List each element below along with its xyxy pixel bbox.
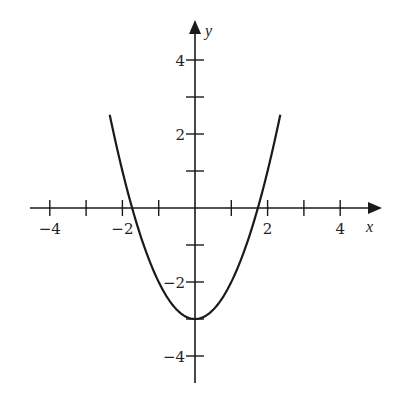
x-tick-label: 4 [335,220,345,238]
x-tick-label: −4 [39,220,61,238]
y-axis-arrow-icon [189,20,201,34]
x-tick-label: 2 [263,220,273,238]
y-tick-label: 4 [175,52,185,70]
x-tick-labels: −4−224 [39,220,345,238]
parabola-plot: −4−224 42−2−4 x y [0,0,401,406]
x-axis-label: x [365,218,373,235]
y-tick-label: −2 [163,274,185,292]
y-tick-label: 2 [175,126,185,144]
x-axis-arrow-icon [368,202,382,214]
y-tick-label: −4 [163,348,185,366]
y-axis-label: y [203,22,213,40]
y-tick-labels: 42−2−4 [163,52,185,366]
x-tick-label: −2 [111,220,133,238]
axes [30,30,372,383]
